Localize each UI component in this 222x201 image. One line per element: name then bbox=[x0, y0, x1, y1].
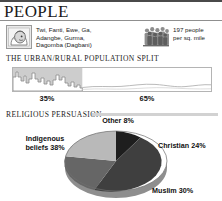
urban-rural-graphic bbox=[13, 68, 211, 91]
fact-languages-text: Twi, Fanti, Ewe, Ga, Adangbe, Gurma, Dag… bbox=[36, 25, 92, 49]
urban-rural-split-chart bbox=[12, 67, 212, 92]
fact-population-density-text: 197 people per sq. mile bbox=[173, 25, 205, 41]
pie-label-indigenous-beliefs: Indigenous beliefs 38% bbox=[14, 134, 76, 152]
section-heading-urban-rural: THE URBAN/RURAL POPULATION SPLIT bbox=[6, 54, 159, 63]
page-header: PEOPLE bbox=[0, 0, 222, 21]
pie-label-other: Other 8% bbox=[86, 116, 150, 125]
urban-percentage-label: 35% bbox=[12, 94, 82, 103]
religion-pie-chart: Other 8% Christian 24% Muslim 30% Indige… bbox=[0, 116, 222, 201]
fact-languages: Twi, Fanti, Ewe, Ga, Adangbe, Gurma, Dag… bbox=[6, 25, 92, 49]
page-title: PEOPLE bbox=[0, 2, 222, 20]
pie-label-muslim: Muslim 30% bbox=[152, 186, 218, 195]
speaking-head-icon bbox=[6, 25, 32, 49]
rural-percentage-label: 65% bbox=[82, 94, 212, 103]
key-facts-row: Twi, Fanti, Ewe, Ga, Adangbe, Gurma, Dag… bbox=[0, 24, 222, 52]
urban-rural-labels: 35% 65% bbox=[12, 94, 212, 104]
fact-population-density: 197 people per sq. mile bbox=[143, 25, 205, 47]
pie-label-christian: Christian 24% bbox=[158, 141, 220, 150]
crowd-of-people-icon bbox=[143, 25, 169, 47]
